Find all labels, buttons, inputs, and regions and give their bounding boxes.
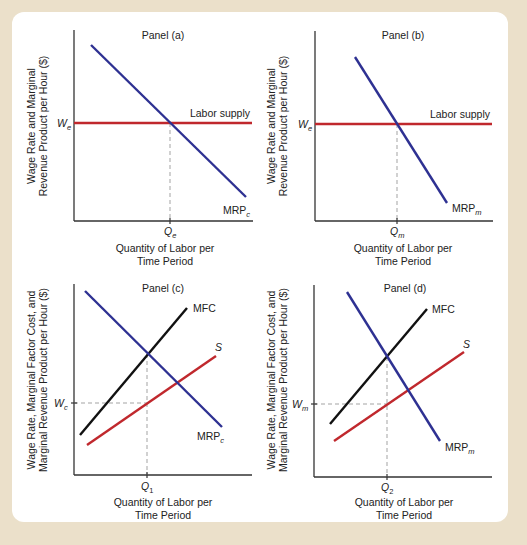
- panel-d: Panel (d) Wage Rate, Marginal Factor Cos…: [265, 282, 492, 521]
- panel-c-mrp-label: MRPc: [197, 430, 224, 445]
- panel-d-xlabel-1: Quantity of Labor per: [355, 496, 454, 508]
- panel-c-xlabel-1: Quantity of Labor per: [114, 496, 213, 508]
- panel-d-xlabel-2: Time Period: [376, 509, 432, 521]
- panel-c-s-label: S: [215, 341, 222, 353]
- panel-d-w-tick: Wm: [292, 398, 308, 413]
- four-panel-chart: Panel (a) Wage Rate and Marginal Revenue…: [0, 0, 527, 545]
- panel-c-w-tick: Wc: [54, 397, 68, 412]
- panel-a-mrp-label: MRPc: [223, 204, 250, 219]
- svg-text:Marginal Revenue Product per H: Marginal Revenue Product per Hour ($): [37, 288, 49, 472]
- panel-d-mrp-label: MRPm: [445, 441, 475, 456]
- panel-d-q-tick: Q2: [381, 481, 393, 496]
- panel-b-xlabel-1: Quantity of Labor per: [354, 242, 453, 254]
- panel-b-ylabel: Wage Rate and Marginal Revenue Product p…: [265, 56, 289, 197]
- panel-b-mrp-label: MRPm: [452, 202, 482, 217]
- svg-text:Wage Rate, Marginal Factor Cos: Wage Rate, Marginal Factor Cost, and: [265, 290, 277, 469]
- panel-a-q-tick: Qe: [164, 225, 176, 240]
- svg-text:Wage Rate, Marginal Factor Cos: Wage Rate, Marginal Factor Cost, and: [25, 290, 37, 469]
- panel-c-ylabel: Wage Rate, Marginal Factor Cost, and Mar…: [25, 288, 49, 472]
- panel-b: Panel (b) Wage Rate and Marginal Revenue…: [265, 29, 493, 267]
- svg-text:Marginal Revenue Product per H: Marginal Revenue Product per Hour ($): [277, 288, 289, 472]
- panel-c-mfc-line: [80, 308, 187, 435]
- panel-c-q-tick: Q1: [141, 480, 153, 495]
- panel-b-q-tick: Qm: [390, 225, 404, 240]
- panel-a-mrp-line: [91, 45, 246, 197]
- svg-text:Wage Rate and Marginal: Wage Rate and Marginal: [25, 68, 37, 184]
- panel-d-ylabel: Wage Rate, Marginal Factor Cost, and Mar…: [265, 288, 289, 472]
- panel-a-ylabel: Wage Rate and Marginal Revenue Product p…: [25, 56, 49, 197]
- panel-c: Panel (c) Wage Rate, Marginal Factor Cos…: [25, 282, 252, 521]
- panel-b-w-tick: We: [298, 118, 312, 133]
- panel-c-mfc-label: MFC: [193, 302, 216, 314]
- panel-a-xlabel-1: Quantity of Labor per: [116, 242, 215, 254]
- panel-d-mfc-line: [330, 309, 427, 424]
- svg-text:Revenue Product per Hour ($): Revenue Product per Hour ($): [277, 56, 289, 197]
- panel-b-supply-label: Labor supply: [430, 108, 491, 120]
- panel-d-mrp-line: [347, 292, 440, 441]
- svg-text:Wage Rate and Marginal: Wage Rate and Marginal: [265, 68, 277, 184]
- panel-b-xlabel-2: Time Period: [375, 255, 431, 267]
- panel-a-title: Panel (a): [142, 29, 185, 41]
- panel-a-w-tick: We: [57, 117, 71, 132]
- panel-b-mrp-line: [355, 57, 447, 203]
- panel-d-mfc-label: MFC: [432, 303, 455, 315]
- panel-c-title: Panel (c): [142, 282, 184, 294]
- panel-a-xlabel-2: Time Period: [137, 255, 193, 267]
- panel-c-xlabel-2: Time Period: [135, 509, 191, 521]
- panel-b-title: Panel (b): [382, 29, 425, 41]
- svg-text:Revenue Product per Hour ($): Revenue Product per Hour ($): [37, 56, 49, 197]
- panel-d-s-label: S: [463, 338, 470, 350]
- panel-a: Panel (a) Wage Rate and Marginal Revenue…: [25, 29, 253, 267]
- panel-d-title: Panel (d): [384, 282, 427, 294]
- panel-a-supply-label: Labor supply: [190, 107, 251, 119]
